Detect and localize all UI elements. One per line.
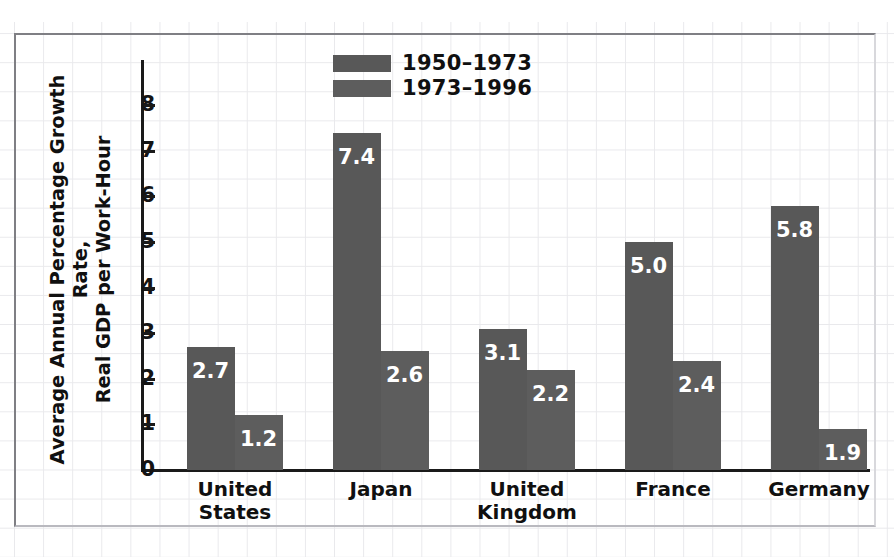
- y-axis-title: Average Annual Percentage Growth Rate, R…: [46, 55, 115, 485]
- bar: [333, 133, 381, 470]
- y-tick-label: 0: [125, 459, 155, 480]
- legend-label-series-b: 1973–1996: [402, 78, 532, 99]
- x-axis-category-label: Germany: [745, 478, 893, 501]
- bar-value-label: 2.6: [386, 365, 423, 386]
- bar-value-label: 2.2: [532, 384, 569, 405]
- bar: [771, 206, 819, 470]
- legend-label-series-a: 1950–1973: [402, 53, 532, 74]
- legend-item: 1973–1996: [333, 77, 532, 99]
- x-axis-category-label: France: [599, 478, 747, 501]
- bar-value-label: 7.4: [338, 147, 375, 168]
- category-label-line: Germany: [745, 478, 893, 501]
- y-tick-mark: [144, 378, 155, 381]
- category-label-line: United: [453, 478, 601, 501]
- category-label-line: United: [161, 478, 309, 501]
- top-margin-strip: [0, 0, 894, 22]
- x-axis-category-label: Japan: [307, 478, 455, 501]
- y-tick-mark: [144, 241, 155, 244]
- category-label-line: Japan: [307, 478, 455, 501]
- bar-value-label: 3.1: [484, 343, 521, 364]
- legend-swatch-series-b: [333, 80, 391, 97]
- bar-value-label: 1.9: [824, 443, 861, 464]
- bar-value-label: 2.7: [192, 361, 229, 382]
- category-label-line: States: [161, 501, 309, 524]
- y-tick-mark: [144, 332, 155, 335]
- y-tick-mark: [144, 423, 155, 426]
- x-axis-category-label: UnitedStates: [161, 478, 309, 524]
- y-axis-line: [141, 60, 144, 472]
- category-label-line: France: [599, 478, 747, 501]
- legend: 1950–1973 1973–1996: [333, 52, 532, 102]
- y-tick-mark: [144, 104, 155, 107]
- bar-value-label: 2.4: [678, 375, 715, 396]
- x-axis-category-label: UnitedKingdom: [453, 478, 601, 524]
- legend-item: 1950–1973: [333, 52, 532, 74]
- y-axis-title-line-2: Real GDP per Work-Hour: [92, 55, 115, 485]
- legend-swatch-series-a: [333, 55, 391, 72]
- bar-value-label: 5.8: [776, 220, 813, 241]
- bar-value-label: 1.2: [240, 429, 277, 450]
- y-tick-mark: [144, 195, 155, 198]
- y-axis-title-line-1: Average Annual Percentage Growth Rate,: [46, 55, 92, 485]
- bar-chart: 012345678 Average Annual Percentage Grow…: [0, 0, 894, 557]
- y-tick-mark: [144, 150, 155, 153]
- bar-value-label: 5.0: [630, 256, 667, 277]
- y-tick-mark: [144, 287, 155, 290]
- category-label-line: Kingdom: [453, 501, 601, 524]
